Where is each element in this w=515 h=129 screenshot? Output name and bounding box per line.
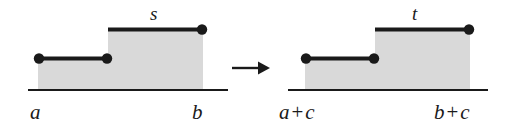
left-panel-step-lower-left-endpoint — [34, 53, 44, 63]
transform-arrow — [232, 62, 270, 75]
right-panel-left-endpoint-label-term: a — [279, 100, 290, 124]
right-panel — [288, 24, 488, 90]
right-panel-function-label: t — [412, 4, 417, 23]
step-function-figure: s t a b a+c b+c — [0, 0, 515, 129]
left-panel-left-endpoint-label: a — [30, 102, 41, 123]
left-panel-right-endpoint-label: b — [192, 102, 203, 123]
right-panel-step-lower-right-endpoint — [369, 53, 379, 63]
right-panel-step-upper-right-endpoint — [464, 24, 474, 34]
left-panel-function-label: s — [150, 4, 157, 23]
right-panel-left-endpoint-label: a+c — [279, 102, 315, 123]
right-panel-left-endpoint-label-offset: c — [305, 100, 314, 124]
left-panel-step-lower-right-endpoint — [102, 53, 112, 63]
right-panel-left-endpoint-label-operator: + — [290, 100, 306, 124]
right-panel-right-endpoint-label-offset: c — [460, 100, 469, 124]
right-panel-right-endpoint-label-operator: + — [445, 100, 461, 124]
right-panel-step-lower-left-endpoint — [301, 53, 311, 63]
left-panel — [28, 24, 228, 90]
right-panel-right-endpoint-label: b+c — [434, 102, 470, 123]
left-panel-step-upper-right-endpoint — [197, 24, 207, 34]
right-panel-right-endpoint-label-term: b — [434, 100, 445, 124]
transform-arrow-head — [258, 62, 270, 75]
